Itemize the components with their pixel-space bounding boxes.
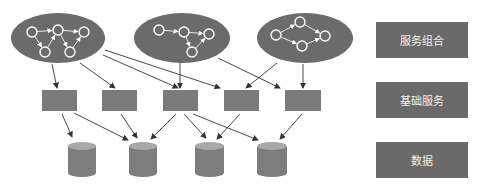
composition-ellipse bbox=[134, 13, 230, 63]
arrow bbox=[121, 114, 137, 138]
legend-label: 基础服务 bbox=[400, 92, 444, 108]
composition-ellipse bbox=[257, 13, 353, 63]
arrow bbox=[280, 114, 302, 139]
service-composition-layer bbox=[11, 13, 353, 63]
composition-ellipse bbox=[11, 13, 105, 63]
basic-service-block bbox=[42, 90, 77, 111]
basic-service-block bbox=[102, 90, 137, 111]
database-cylinder bbox=[68, 142, 96, 177]
database-cylinder bbox=[129, 142, 157, 177]
arrow bbox=[193, 114, 258, 140]
database-cylinder bbox=[257, 142, 287, 177]
basic-service-block bbox=[163, 90, 198, 111]
legend-label: 服务组合 bbox=[400, 32, 444, 48]
arrow bbox=[151, 114, 176, 139]
arrow bbox=[218, 58, 280, 88]
arrow bbox=[62, 114, 72, 137]
legend-data: 数据 bbox=[376, 142, 468, 178]
legend-label: 数据 bbox=[411, 152, 433, 168]
basic-service-block bbox=[224, 90, 259, 111]
legend-basic-service: 基础服务 bbox=[376, 82, 468, 118]
arrow bbox=[74, 113, 128, 140]
basic-service-layer bbox=[42, 90, 321, 111]
basic-service-block bbox=[285, 90, 321, 111]
data-layer bbox=[68, 142, 287, 177]
database-cylinder bbox=[195, 142, 224, 177]
legend-service-composition: 服务组合 bbox=[376, 22, 468, 58]
arrow bbox=[217, 114, 240, 139]
arrow bbox=[52, 64, 57, 88]
arrow bbox=[80, 63, 115, 88]
